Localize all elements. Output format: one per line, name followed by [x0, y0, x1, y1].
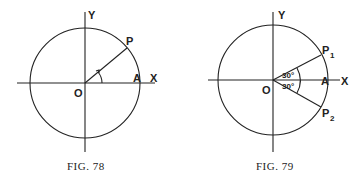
- radius-op2: [273, 80, 321, 107]
- point-p1-subscript: 1: [330, 51, 335, 60]
- radius-op: [85, 48, 127, 83]
- x-label: X: [341, 75, 349, 87]
- point-p2-subscript: 2: [330, 114, 335, 123]
- angle-upper-label: 30°: [282, 71, 294, 80]
- figures-canvas: Y X O A P FIG. 78 Y X O A P 1 P 2 30° 30…: [0, 0, 357, 184]
- origin-label: O: [74, 87, 83, 99]
- angle-arc: [98, 72, 102, 83]
- point-a-label: A: [133, 72, 141, 84]
- y-label: Y: [88, 9, 96, 21]
- y-label: Y: [278, 9, 286, 21]
- point-a-label: A: [321, 75, 329, 87]
- figure-78-caption: FIG. 78: [67, 160, 105, 172]
- angle-lower-label: 30°: [282, 82, 294, 91]
- point-p1-label: P: [322, 44, 329, 56]
- origin-label: O: [262, 84, 271, 96]
- x-label: X: [150, 72, 158, 84]
- point-p-label: P: [126, 35, 133, 47]
- radius-op1: [273, 55, 321, 80]
- figure-79-caption: FIG. 79: [256, 160, 294, 172]
- point-p2-label: P: [322, 107, 329, 119]
